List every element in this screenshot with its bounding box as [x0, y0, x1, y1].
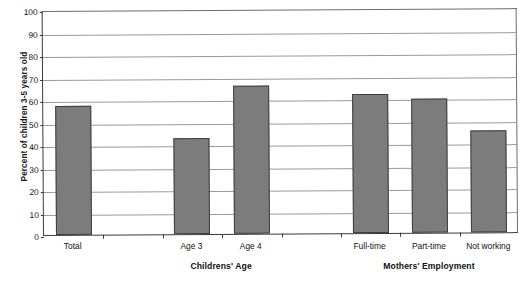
y-tick-label: 70 [9, 74, 43, 84]
y-tick-label: 0 [10, 232, 44, 242]
y-tick-mark [41, 237, 44, 238]
x-axis-ticks [43, 9, 516, 12]
y-tick-label: 40 [9, 142, 43, 152]
x-tick-label: Total [64, 241, 82, 251]
bar [174, 138, 211, 234]
gridline [43, 32, 516, 36]
plot-area: 0102030405060708090100 [42, 8, 518, 236]
y-tick-label: 60 [9, 97, 43, 107]
y-tick-mark [41, 169, 44, 170]
y-tick-mark [41, 192, 44, 193]
bar [471, 130, 508, 232]
bar [411, 99, 448, 233]
x-tick-label: Full-time [354, 241, 386, 251]
bar [55, 106, 92, 235]
gridlines [43, 9, 516, 12]
y-tick-label: 10 [10, 209, 44, 219]
x-tick-label: Part-time [412, 241, 446, 251]
x-tick-mark [281, 234, 282, 238]
y-tick-mark [40, 147, 43, 148]
y-tick-label: 90 [9, 29, 43, 39]
y-tick-label: 50 [9, 119, 43, 129]
bar [352, 94, 389, 233]
x-tick-label: Age 4 [240, 241, 262, 251]
y-axis-ticks: 0102030405060708090100 [43, 9, 516, 12]
x-tick-mark [222, 234, 223, 238]
x-tick-mark [103, 235, 104, 239]
y-tick-mark [40, 57, 43, 58]
y-tick-label: 80 [9, 52, 43, 62]
gridline [43, 77, 516, 81]
bar-chart: Percent of children 3-5 years old 010203… [0, 0, 529, 282]
x-tick-mark [341, 233, 342, 237]
y-tick-label: 100 [9, 7, 43, 17]
x-tick-label: Not working [466, 241, 510, 251]
y-tick-mark [40, 79, 43, 80]
y-tick-label: 20 [10, 187, 44, 197]
x-tick-mark [460, 232, 461, 236]
y-tick-mark [40, 124, 43, 125]
group-label-mothers-employment: Mothers' Employment [383, 261, 474, 271]
group-label-childrens-age: Childrens' Age [190, 261, 251, 271]
y-tick-mark [41, 214, 44, 215]
bar-series [43, 9, 516, 12]
x-tick-mark [163, 234, 164, 238]
x-tick-mark [400, 233, 401, 237]
gridline [43, 54, 516, 58]
y-tick-mark [40, 12, 43, 13]
x-tick-label: Age 3 [180, 241, 202, 251]
y-tick-label: 30 [10, 164, 44, 174]
bar [233, 86, 270, 234]
y-tick-mark [40, 34, 43, 35]
y-tick-mark [40, 102, 43, 103]
